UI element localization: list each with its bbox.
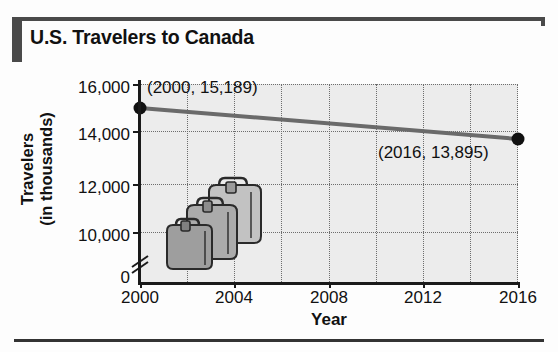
title-accent-bar bbox=[12, 17, 22, 62]
annotation-point-2000: (2000, 15,189) bbox=[147, 78, 258, 98]
x-tick-label-2004: 2004 bbox=[194, 288, 274, 308]
y-tick-label-16000: 16,000 bbox=[46, 78, 130, 98]
gridline-vertical-2014 bbox=[470, 84, 471, 282]
title-rule-end-cap bbox=[541, 17, 545, 26]
y-tick-label-0: 0 bbox=[46, 268, 130, 288]
y-axis-title-line2: (in thousands) bbox=[37, 79, 56, 259]
y-axis-title: Travelers (in thousands) bbox=[18, 79, 56, 259]
y-tick-16000 bbox=[133, 84, 139, 86]
y-axis-title-line1: Travelers bbox=[18, 79, 37, 259]
x-tick-label-2008: 2008 bbox=[289, 288, 369, 308]
x-tick-label-2000: 2000 bbox=[100, 288, 180, 308]
y-tick-label-16000-wrap: 16,000 bbox=[46, 78, 130, 98]
y-tick-label-14000: 14,000 bbox=[46, 125, 130, 145]
x-axis-title: Year bbox=[140, 310, 518, 330]
gridline-vertical-2012 bbox=[423, 84, 424, 282]
title-top-rule bbox=[12, 17, 545, 21]
axis-break-icon bbox=[129, 253, 151, 275]
y-tick-label-12000-wrap: 12,000 bbox=[46, 178, 130, 198]
page-title: U.S. Travelers to Canada bbox=[30, 26, 254, 49]
y-tick-label-10000-wrap: 10,000 bbox=[46, 226, 130, 246]
y-tick-label-0-wrap: 0 bbox=[46, 268, 130, 288]
gridline-vertical-2008 bbox=[329, 84, 330, 282]
x-tick-label-2012: 2012 bbox=[383, 288, 463, 308]
y-tick-10000 bbox=[133, 232, 139, 234]
gridline-vertical-2016 bbox=[517, 84, 518, 282]
chart-figure: U.S. Travelers to Canada bbox=[0, 0, 558, 352]
y-tick-label-14000-wrap: 14,000 bbox=[46, 125, 130, 145]
footer-rule bbox=[14, 339, 544, 342]
y-tick-label-12000: 12,000 bbox=[46, 178, 130, 198]
y-tick-12000 bbox=[133, 184, 139, 186]
y-tick-label-10000: 10,000 bbox=[46, 226, 130, 246]
y-tick-14000 bbox=[133, 131, 139, 133]
x-tick-label-2016: 2016 bbox=[478, 288, 558, 308]
annotation-point-2016: (2016, 13,895) bbox=[378, 143, 489, 163]
gridline-vertical-2010 bbox=[376, 84, 377, 282]
gridline-vertical-2006 bbox=[281, 84, 282, 282]
suitcases-icon bbox=[163, 168, 275, 274]
